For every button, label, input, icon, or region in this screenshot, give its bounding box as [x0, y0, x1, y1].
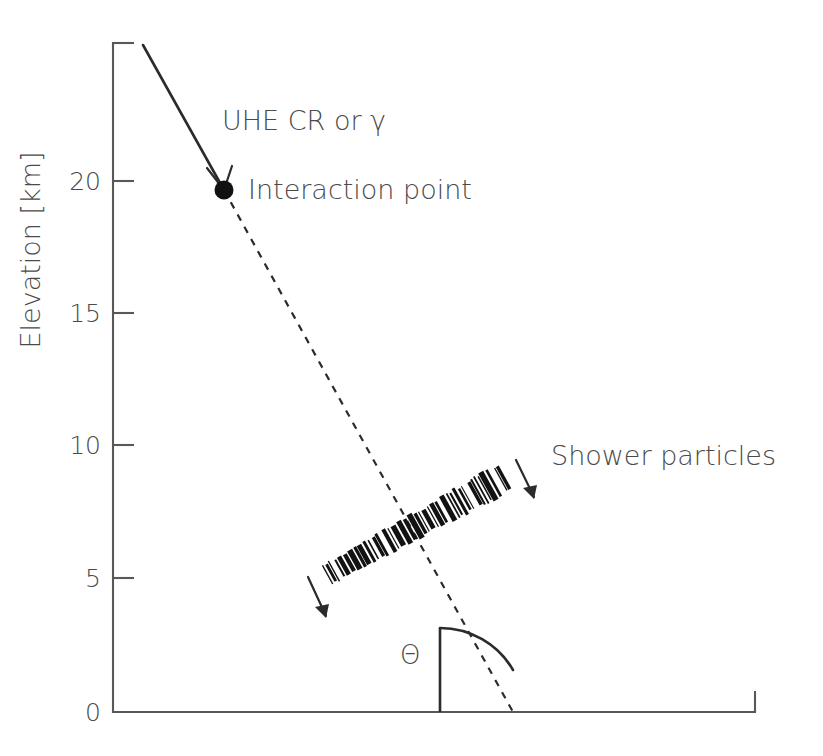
annotation-shower-label: Shower particles [551, 440, 776, 471]
shower-particle-band [322, 466, 509, 584]
y-tick-label-0: 0 [85, 698, 101, 727]
y-tick-label-20: 20 [69, 167, 101, 196]
figure-canvas: 20 15 10 5 0 Elevation [km] [0, 0, 823, 756]
annotation-primary-label: UHE CR or γ [222, 105, 386, 136]
y-tick-label-15: 15 [69, 299, 101, 328]
primary-particle-track [143, 45, 224, 190]
annotation-zenith-angle-label: Θ [400, 640, 420, 670]
y-tick-labels: 20 15 10 5 0 [69, 167, 101, 727]
y-axis-title: Elevation [km] [15, 151, 46, 348]
shower-particle-tick [497, 466, 510, 489]
shower-direction-arrow-right [516, 460, 537, 499]
axis-group [113, 43, 755, 712]
zenith-angle-arc [440, 628, 513, 670]
interaction-point-marker [215, 181, 234, 200]
air-shower-figure: 20 15 10 5 0 Elevation [km] [0, 0, 823, 756]
shower-direction-arrow-left [308, 577, 329, 618]
y-tick-label-5: 5 [85, 564, 101, 593]
shower-particle-tick [423, 510, 433, 529]
y-tick-label-10: 10 [69, 431, 101, 460]
annotation-interaction-label: Interaction point [248, 174, 472, 205]
